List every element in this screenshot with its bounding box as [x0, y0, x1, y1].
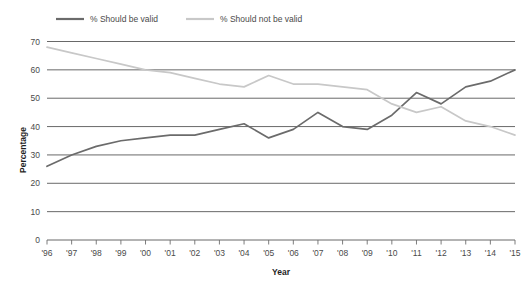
x-tick-03: '03	[214, 248, 225, 258]
y-tick-10: 10	[31, 207, 41, 217]
x-tick-12: '12	[436, 248, 447, 258]
y-axis-tick-labels: 010203040506070	[31, 37, 41, 246]
series-line-should-be-valid	[47, 70, 515, 166]
x-axis-tick-labels: '96'97'98'99'00'01'02'03'04'05'06'07'08'…	[41, 248, 520, 258]
y-tick-40: 40	[31, 122, 41, 132]
x-tick-97: '97	[66, 248, 77, 258]
x-tick-99: '99	[115, 248, 126, 258]
x-tick-15: '15	[509, 248, 520, 258]
x-tick-96: '96	[41, 248, 52, 258]
x-tick-08: '08	[337, 248, 348, 258]
x-tick-02: '02	[189, 248, 200, 258]
x-tick-00: '00	[140, 248, 151, 258]
chart-legend: % Should be valid % Should not be valid	[56, 14, 302, 24]
y-tick-50: 50	[31, 93, 41, 103]
x-tick-14: '14	[485, 248, 496, 258]
legend-label-should-not-be-valid: % Should not be valid	[220, 14, 302, 24]
chart-canvas: % Should be valid % Should not be valid …	[0, 0, 523, 289]
line-chart: % Should be valid % Should not be valid …	[0, 0, 523, 289]
x-tick-06: '06	[288, 248, 299, 258]
y-tick-70: 70	[31, 37, 41, 47]
series-line-should-not-be-valid	[47, 47, 515, 135]
x-tick-07: '07	[312, 248, 323, 258]
y-tick-30: 30	[31, 150, 41, 160]
legend-label-should-be-valid: % Should be valid	[90, 14, 158, 24]
x-tick-10: '10	[386, 248, 397, 258]
x-tick-05: '05	[263, 248, 274, 258]
x-axis-title: Year	[272, 267, 291, 277]
y-tick-20: 20	[31, 178, 41, 188]
x-tick-09: '09	[362, 248, 373, 258]
y-axis-title: Percentage	[18, 127, 28, 173]
y-tick-60: 60	[31, 65, 41, 75]
data-series	[47, 47, 515, 166]
x-tick-04: '04	[239, 248, 250, 258]
x-tick-11: '11	[411, 248, 422, 258]
x-tick-01: '01	[165, 248, 176, 258]
x-tick-13: '13	[460, 248, 471, 258]
x-axis-tickmarks	[47, 240, 515, 245]
y-tick-0: 0	[35, 235, 40, 245]
x-tick-98: '98	[91, 248, 102, 258]
